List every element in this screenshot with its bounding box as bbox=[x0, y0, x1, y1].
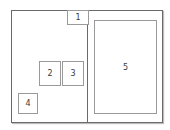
box-4-label: 4 bbox=[25, 99, 30, 108]
box-2-label: 2 bbox=[47, 69, 52, 78]
box-1: 1 bbox=[67, 10, 89, 25]
box-1-label: 1 bbox=[75, 13, 80, 22]
box-5: 5 bbox=[94, 20, 157, 114]
diagram-canvas: 1 2 3 4 5 bbox=[0, 0, 170, 130]
outer-frame: 1 2 3 4 5 bbox=[11, 10, 163, 123]
box-5-label: 5 bbox=[123, 63, 128, 72]
vertical-divider bbox=[87, 11, 88, 122]
box-3: 3 bbox=[62, 61, 84, 86]
box-3-label: 3 bbox=[70, 69, 75, 78]
box-2: 2 bbox=[39, 61, 61, 86]
box-4: 4 bbox=[18, 93, 38, 114]
